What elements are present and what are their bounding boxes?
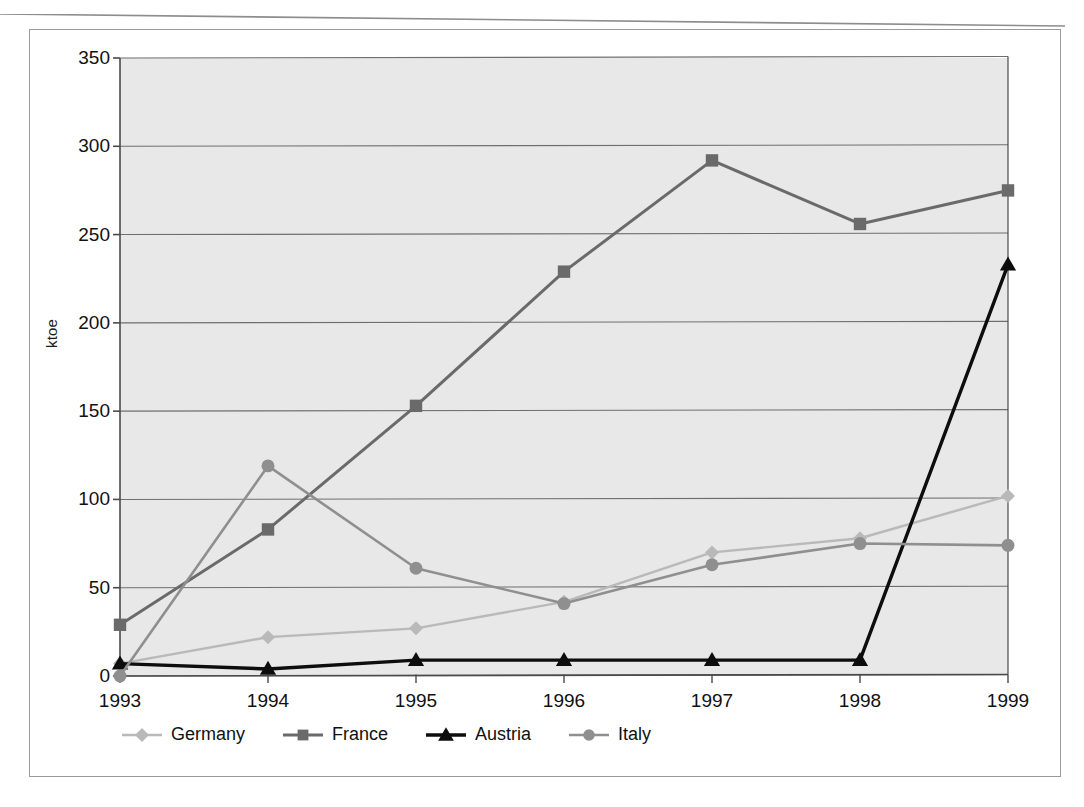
legend-label: Italy	[618, 724, 651, 745]
legend-label: Austria	[475, 724, 531, 745]
square-marker	[262, 523, 274, 535]
triangle-marker	[424, 727, 468, 743]
square-marker	[854, 218, 866, 230]
x-tick-label: 1998	[839, 690, 881, 712]
circle-marker	[706, 558, 719, 571]
square-marker	[281, 727, 325, 743]
circle-marker	[1002, 539, 1015, 552]
legend-item-france: France	[281, 724, 388, 745]
x-tick-label: 1994	[247, 690, 289, 712]
diamond-marker	[135, 727, 149, 741]
legend-item-germany: Germany	[120, 724, 245, 745]
square-marker	[410, 400, 422, 412]
y-axis-ticks: 050100150200250300350	[0, 0, 110, 807]
circle-marker	[114, 670, 127, 683]
square-marker	[706, 154, 718, 166]
y-axis-title: ktoe	[43, 268, 60, 348]
square-marker	[558, 265, 570, 277]
gridline	[120, 57, 1008, 59]
x-tick-label: 1997	[691, 690, 733, 712]
chart-legend: GermanyFranceAustriaItaly	[120, 724, 651, 745]
line-chart	[0, 0, 1084, 807]
x-tick-label: 1995	[395, 690, 437, 712]
circle-marker	[410, 562, 423, 575]
y-tick-label: 350	[10, 47, 110, 69]
x-tick-label: 1993	[99, 690, 141, 712]
y-tick-label: 150	[10, 400, 110, 422]
circle-marker	[567, 727, 611, 743]
y-tick-label: 250	[10, 224, 110, 246]
x-tick-label: 1996	[543, 690, 585, 712]
circle-marker	[854, 537, 867, 550]
circle-marker	[262, 459, 275, 472]
y-tick-label: 200	[10, 312, 110, 334]
y-tick-label: 100	[10, 488, 110, 510]
plot-background	[120, 58, 1008, 676]
circle-marker	[583, 729, 595, 741]
y-tick-label: 50	[10, 577, 110, 599]
legend-label: France	[332, 724, 388, 745]
legend-label: Germany	[171, 724, 245, 745]
square-marker	[298, 729, 309, 740]
x-tick-label: 1999	[987, 690, 1029, 712]
square-marker	[1002, 184, 1014, 196]
square-marker	[114, 619, 126, 631]
circle-marker	[558, 597, 571, 610]
diamond-marker	[120, 727, 164, 743]
y-tick-label: 0	[10, 665, 110, 687]
legend-item-italy: Italy	[567, 724, 651, 745]
y-tick-label: 300	[10, 135, 110, 157]
legend-item-austria: Austria	[424, 724, 531, 745]
